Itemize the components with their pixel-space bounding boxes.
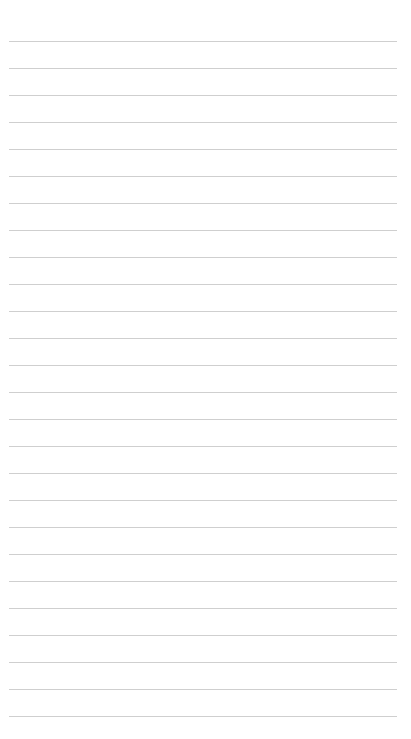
ruled-line <box>9 365 397 366</box>
ruled-line <box>9 554 397 555</box>
ruled-line <box>9 149 397 150</box>
ruled-line <box>9 311 397 312</box>
ruled-line <box>9 68 397 69</box>
ruled-line <box>9 122 397 123</box>
ruled-line <box>9 581 397 582</box>
ruled-line <box>9 662 397 663</box>
ruled-line <box>9 716 397 717</box>
ruled-line <box>9 257 397 258</box>
ruled-line <box>9 176 397 177</box>
ruled-line <box>9 338 397 339</box>
ruled-line <box>9 527 397 528</box>
ruled-line <box>9 500 397 501</box>
ruled-line <box>9 41 397 42</box>
ruled-line <box>9 419 397 420</box>
ruled-line <box>9 446 397 447</box>
ruled-line <box>9 473 397 474</box>
ruled-line <box>9 608 397 609</box>
ruled-line <box>9 284 397 285</box>
lined-paper-page <box>0 0 411 739</box>
ruled-line <box>9 95 397 96</box>
ruled-line <box>9 635 397 636</box>
ruled-line <box>9 230 397 231</box>
ruled-line <box>9 392 397 393</box>
ruled-line <box>9 203 397 204</box>
ruled-line <box>9 689 397 690</box>
